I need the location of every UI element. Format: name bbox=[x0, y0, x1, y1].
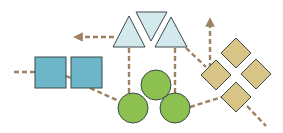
diamond-group bbox=[201, 38, 271, 112]
circle-shape bbox=[160, 93, 190, 123]
shape-diagram bbox=[0, 0, 283, 133]
dashed-connector bbox=[66, 76, 71, 78]
diamond-shape bbox=[201, 60, 231, 90]
triangle-group bbox=[113, 12, 187, 47]
square-shape bbox=[35, 57, 66, 88]
square-group bbox=[35, 57, 102, 88]
dashed-connector bbox=[247, 106, 266, 126]
diagram-svg bbox=[0, 0, 283, 133]
diamond-shape bbox=[241, 59, 271, 89]
circle-shape bbox=[118, 93, 148, 123]
circle-group bbox=[118, 70, 190, 123]
dashed-connector bbox=[190, 97, 222, 107]
diamond-shape bbox=[221, 38, 251, 68]
dashed-connector bbox=[90, 88, 119, 101]
dashed-connector bbox=[186, 48, 206, 67]
square-shape bbox=[71, 57, 102, 88]
diamond-shape bbox=[221, 82, 251, 112]
